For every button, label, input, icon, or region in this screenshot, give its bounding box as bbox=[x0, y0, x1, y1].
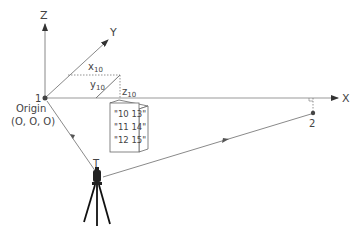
z10-label: z10 bbox=[122, 86, 136, 99]
y-axis-label: Y bbox=[109, 26, 117, 39]
z-axis-label: Z bbox=[40, 9, 48, 22]
diagram-canvas: Z Y X x10 y10 z10 1 Origin (O, O, O) "10… bbox=[0, 0, 350, 234]
panel-row-3: "12 15" bbox=[114, 135, 146, 145]
point-2-label: 2 bbox=[309, 118, 315, 129]
x-axis-label: X bbox=[342, 92, 350, 105]
origin-label: Origin bbox=[16, 103, 46, 114]
origin-point bbox=[43, 96, 48, 101]
point-2 bbox=[311, 111, 315, 115]
reflector-panel: "10 13" "11 14" "12 15" bbox=[110, 100, 148, 152]
origin-coords: (O, O, O) bbox=[11, 116, 55, 127]
y10-label: y10 bbox=[90, 79, 105, 92]
panel-row-2: "11 14" bbox=[114, 122, 146, 132]
panel-row-1: "10 13" bbox=[114, 109, 146, 119]
x10-label: x10 bbox=[88, 61, 103, 74]
